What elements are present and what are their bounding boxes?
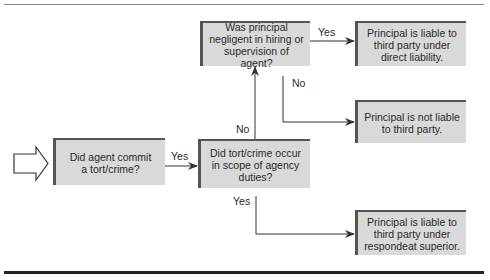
edge-label-scope-to-negligent: No <box>236 123 249 135</box>
node-respondeat-superior-text: Principal is liable to third party under… <box>364 216 460 252</box>
bottom-rule <box>4 271 484 274</box>
node-not-liable-text: Principal is not liable to third party. <box>364 111 460 135</box>
edge-label-negligent-to-direct: Yes <box>318 26 335 38</box>
entry-block-arrow-icon <box>14 147 48 180</box>
edge-label-scope-to-respondeat: Yes <box>233 195 250 207</box>
node-principal-negligent-text: Was principal negligent in hiring or sup… <box>209 21 304 69</box>
node-principal-negligent: Was principal negligent in hiring or sup… <box>200 21 310 66</box>
node-agent-commit-tort-text: Did agent commit a tort/crime? <box>68 151 153 175</box>
node-direct-liability-text: Principal is liable to third party under… <box>367 27 457 63</box>
edge-label-start-to-scope: Yes <box>171 150 188 162</box>
node-direct-liability: Principal is liable to third party under… <box>355 21 466 66</box>
node-respondeat-superior: Principal is liable to third party under… <box>355 210 466 255</box>
node-not-liable: Principal is not liable to third party. <box>355 100 466 143</box>
node-agent-commit-tort: Did agent commit a tort/crime? <box>53 138 165 185</box>
edge-label-negligent-to-not-liable: No <box>292 77 305 89</box>
node-scope-of-duties-text: Did tort/crime occur in scope of agency … <box>208 147 304 183</box>
node-scope-of-duties: Did tort/crime occur in scope of agency … <box>198 139 310 188</box>
